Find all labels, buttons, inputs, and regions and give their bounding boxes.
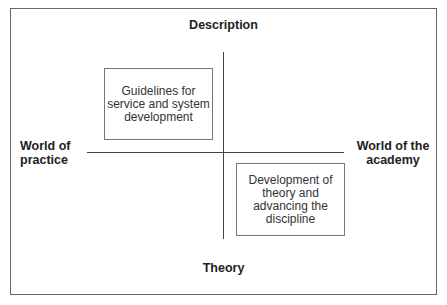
- axis-label-bottom: Theory: [0, 261, 447, 275]
- quadrant-box-text: Guidelines for service and system develo…: [107, 85, 210, 124]
- horizontal-axis-line: [87, 152, 344, 153]
- quadrant-box-text: Development of theory and advancing the …: [248, 174, 332, 226]
- axis-label-top: Description: [0, 18, 447, 32]
- vertical-axis-line: [223, 52, 224, 239]
- axis-label-right: World of the academy: [343, 139, 443, 167]
- quadrant-box-lower-right: Development of theory and advancing the …: [236, 163, 345, 236]
- axis-label-left: World of practice: [20, 139, 90, 167]
- quadrant-box-upper-left: Guidelines for service and system develo…: [104, 68, 213, 140]
